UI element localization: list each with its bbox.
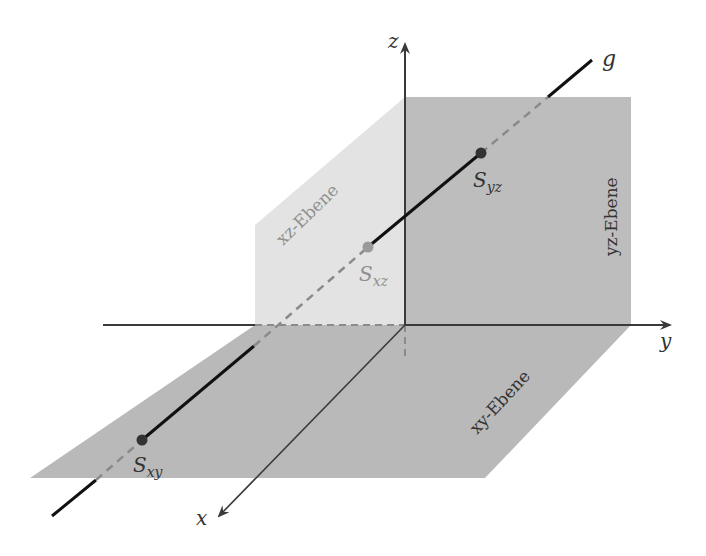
point-sxz	[363, 242, 374, 253]
line-g-segment-top	[548, 60, 592, 97]
x-axis-label: x	[196, 506, 207, 530]
y-axis-label: y	[659, 329, 672, 353]
z-axis-label: z	[387, 29, 399, 53]
point-sxy	[137, 435, 148, 446]
yz-plane-label: yz-Ebene	[601, 177, 621, 257]
yz-plane	[405, 97, 631, 325]
line-g-segment-bottom	[52, 480, 96, 516]
point-syz	[476, 148, 487, 159]
coordinate-diagram: z y x g Sxy Sxz Syz xz-Ebene yz-Ebene xy…	[0, 0, 706, 556]
line-g-label: g	[602, 46, 616, 71]
xz-plane	[255, 97, 405, 325]
